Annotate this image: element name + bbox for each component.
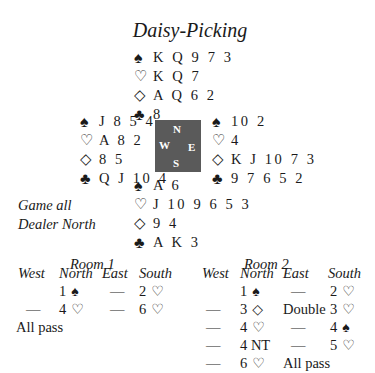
diamond-icon: ◇ (80, 150, 99, 169)
heart-icon: ♡ (342, 284, 355, 299)
heart-icon: ♡ (342, 302, 355, 317)
room-1-bid: 4♡ (59, 300, 84, 319)
compass-east: E (188, 142, 195, 153)
spade-icon: ♠ (134, 48, 153, 67)
room-2-all-pass: All pass (283, 354, 330, 372)
heart-icon: ♡ (212, 131, 231, 150)
diamond-icon: ◇ (134, 214, 153, 233)
north-spades: ♠K Q 9 7 3 (134, 48, 234, 67)
heart-icon: ♡ (342, 338, 355, 353)
heart-icon: ♡ (151, 284, 164, 299)
deal-title: Daisy-Picking (0, 18, 375, 42)
room-2-bid: 4 NT (240, 336, 270, 354)
room-2-bid: — (291, 282, 306, 300)
south-hand: ♠A 6 ♡J 10 9 6 5 3 ◇9 4 ♣A K 3 (134, 176, 251, 252)
heart-icon: ♡ (134, 67, 153, 86)
club-icon: ♣ (134, 233, 153, 252)
room-2-bid: — (206, 354, 221, 372)
room-2-bid: 2♡ (330, 282, 355, 301)
room-2-bid: 3◇ (240, 300, 263, 319)
spade-icon: ♠ (80, 112, 99, 131)
diamond-icon: ◇ (134, 86, 153, 105)
spade-icon: ♠ (342, 320, 349, 335)
diamond-icon: ◇ (252, 302, 263, 317)
compass-box: N W E S (155, 120, 201, 172)
room-2-bid: — (206, 318, 221, 336)
east-diamonds: ◇K J 10 7 3 (212, 150, 317, 169)
room-1-bid: 2♡ (139, 282, 164, 301)
room-2-bid: 6♡ (240, 354, 265, 373)
vulnerability-label: Game all (18, 196, 72, 215)
compass-north: N (173, 124, 181, 135)
south-spades: ♠A 6 (134, 176, 251, 195)
room-2-header-east: East (283, 264, 309, 282)
spade-icon: ♠ (212, 112, 231, 131)
heart-icon: ♡ (151, 302, 164, 317)
spade-icon: ♠ (134, 176, 153, 195)
room-1-bid: — (110, 282, 125, 300)
compass-south: S (173, 158, 179, 169)
room-2-bid: — (291, 318, 306, 336)
spade-icon: ♠ (252, 284, 259, 299)
room-1-header-west: West (18, 264, 45, 282)
room-2-bid: — (291, 336, 306, 354)
heart-icon: ♡ (71, 302, 84, 317)
room-2-bid: 3♡ (330, 300, 355, 319)
south-hearts: ♡J 10 9 6 5 3 (134, 195, 251, 214)
room-2-bid: — (206, 336, 221, 354)
east-hearts: ♡4 (212, 131, 317, 150)
room-2-bid: 4♠ (330, 318, 350, 337)
north-hearts: ♡K Q 7 (134, 67, 234, 86)
south-clubs: ♣A K 3 (134, 233, 251, 252)
dealer-label: Dealer North (18, 215, 96, 234)
room-1-bid: — (26, 300, 41, 318)
room-2-bid: 1♠ (240, 282, 260, 301)
room-2-header-south: South (328, 264, 361, 282)
room-2-header-north: North (240, 264, 274, 282)
heart-icon: ♡ (80, 131, 99, 150)
north-diamonds: ◇A Q 6 2 (134, 86, 234, 105)
room-1-all-pass: All pass (16, 318, 63, 336)
heart-icon: ♡ (252, 320, 265, 335)
spade-icon: ♠ (71, 284, 78, 299)
room-2-bid: 5♡ (330, 336, 355, 355)
room-1-bid: 1♠ (59, 282, 79, 301)
room-1-header-north: North (59, 264, 93, 282)
diamond-icon: ◇ (212, 150, 231, 169)
heart-icon: ♡ (134, 195, 153, 214)
compass-west: W (159, 140, 170, 151)
east-spades: ♠10 2 (212, 112, 317, 131)
room-2-bid: — (206, 300, 221, 318)
room-1-bid: — (110, 300, 125, 318)
room-2-bid: 4♡ (240, 318, 265, 337)
room-2-header-west: West (202, 264, 229, 282)
south-diamonds: ◇9 4 (134, 214, 251, 233)
club-icon: ♣ (80, 169, 99, 188)
room-1-header-south: South (139, 264, 172, 282)
room-1-bid: 6♡ (139, 300, 164, 319)
room-2-bid: Double (283, 300, 326, 318)
room-1-header-east: East (102, 264, 128, 282)
heart-icon: ♡ (252, 356, 265, 371)
